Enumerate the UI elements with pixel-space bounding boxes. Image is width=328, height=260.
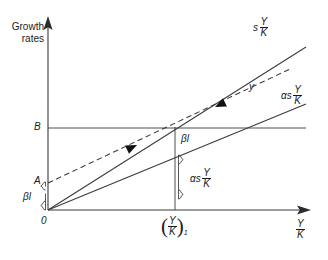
y-axis-title-line-1: Growth bbox=[2, 21, 44, 33]
fraction-denominator: K bbox=[260, 28, 269, 38]
beta-l-equilibrium-label: βl bbox=[181, 134, 189, 144]
y-axis-title-line-2: rates bbox=[2, 33, 44, 45]
origin-label: 0 bbox=[41, 216, 47, 226]
alpha-s-segment-label: αsYK bbox=[190, 168, 211, 189]
x-tick-label-equilibrium: (YK)1 bbox=[161, 216, 188, 237]
beta-l-origin-brace bbox=[41, 182, 46, 210]
curve-label-alpha-s-lead: αs bbox=[281, 91, 293, 101]
growth-rates-diagram: Growth rates sYK αsYK y B A βl βl αsYK 0… bbox=[0, 0, 328, 260]
fraction-denominator: K bbox=[293, 96, 302, 106]
curve-label-s-y-over-k: sYK bbox=[253, 17, 268, 38]
fraction-y-over-k: YK bbox=[202, 168, 211, 189]
x-axis-label: YK bbox=[296, 219, 305, 240]
fraction-denominator: K bbox=[202, 179, 211, 189]
curve-label-alpha-s-y-over-k: αsYK bbox=[281, 85, 302, 106]
beta-l-origin-label: βl bbox=[23, 192, 31, 202]
close-paren: ) bbox=[177, 217, 184, 236]
fraction-y-over-k: YK bbox=[293, 85, 302, 106]
curve-label-y: y bbox=[249, 82, 256, 92]
fraction-denominator: K bbox=[296, 230, 305, 240]
open-paren: ( bbox=[161, 217, 168, 236]
y-axis-title: Growth rates bbox=[2, 21, 44, 45]
fraction-y-over-k: YK bbox=[260, 17, 269, 38]
alpha-s-y-over-k-line bbox=[48, 104, 306, 210]
s-y-over-k-line bbox=[48, 47, 306, 210]
curve-label-y-lead: y bbox=[249, 82, 256, 92]
y-axis bbox=[43, 16, 52, 210]
fraction-denominator: K bbox=[168, 227, 177, 237]
y-tick-label-a: A bbox=[34, 176, 41, 186]
y-tick-label-b: B bbox=[34, 122, 41, 132]
fraction-y-over-k: YK bbox=[168, 216, 177, 237]
segment-label-lead: αs bbox=[190, 174, 202, 184]
fraction-y-over-k: YK bbox=[296, 219, 305, 240]
adjustment-arrow-right bbox=[125, 141, 139, 154]
subscript-1: 1 bbox=[184, 229, 188, 237]
alpha-s-segment-brace bbox=[179, 155, 184, 199]
x-axis bbox=[48, 205, 311, 214]
